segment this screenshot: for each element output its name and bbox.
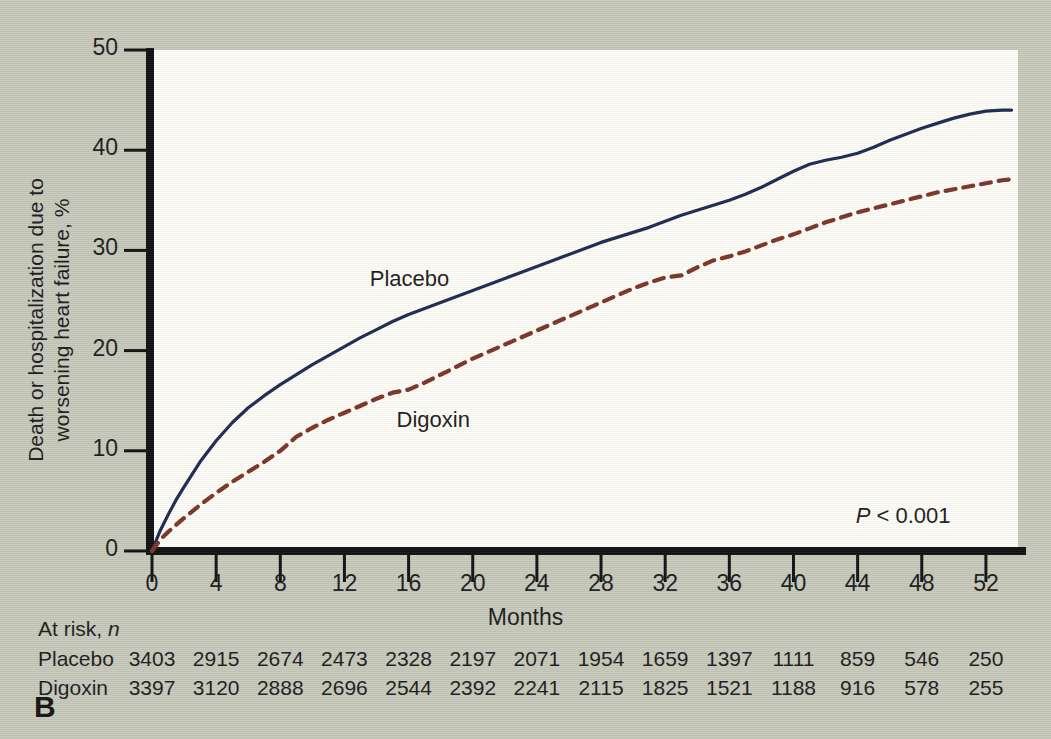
y-tick-label: 20 — [58, 335, 118, 362]
at-risk-row-name: Placebo — [38, 647, 114, 671]
x-tick-label: 48 — [892, 570, 952, 597]
y-axis-title-line1: Death or hospitalization due to — [23, 85, 49, 555]
at-risk-value: 578 — [887, 676, 957, 700]
y-axis-spine — [146, 48, 154, 553]
at-risk-value: 2241 — [502, 676, 572, 700]
at-risk-value: 2197 — [438, 647, 508, 671]
at-risk-value: 2696 — [309, 676, 379, 700]
p-value-symbol: P — [856, 503, 871, 528]
at-risk-value: 916 — [823, 676, 893, 700]
plot-area-background — [152, 50, 1018, 551]
x-tick-label: 28 — [571, 570, 631, 597]
x-axis-spine — [146, 547, 1026, 555]
p-value-text: < 0.001 — [870, 503, 950, 528]
series-label-placebo: Placebo — [370, 266, 450, 292]
at-risk-title: At risk, n — [38, 617, 120, 641]
x-tick-label: 40 — [763, 570, 823, 597]
at-risk-value: 2473 — [309, 647, 379, 671]
y-tick-label: 10 — [58, 435, 118, 462]
y-tick-label: 0 — [58, 535, 118, 562]
series-label-digoxin: Digoxin — [397, 407, 470, 433]
at-risk-value: 2888 — [245, 676, 315, 700]
y-tick-label: 50 — [58, 34, 118, 61]
x-axis-title: Months — [0, 604, 1051, 631]
x-tick-label: 20 — [443, 570, 503, 597]
p-value-annotation: P < 0.001 — [856, 503, 951, 529]
panel-label: B — [34, 690, 56, 724]
at-risk-value: 2071 — [502, 647, 572, 671]
at-risk-value: 3403 — [117, 647, 187, 671]
x-tick-label: 16 — [379, 570, 439, 597]
at-risk-value: 3397 — [117, 676, 187, 700]
x-tick-label: 52 — [956, 570, 1016, 597]
at-risk-row: Digoxin339731202888269625442392224121151… — [0, 676, 1051, 704]
at-risk-value: 1521 — [694, 676, 764, 700]
at-risk-title-n: n — [108, 617, 120, 640]
at-risk-value: 3120 — [181, 676, 251, 700]
x-tick-label: 0 — [122, 570, 182, 597]
at-risk-value: 1111 — [758, 647, 828, 671]
at-risk-value: 2544 — [374, 676, 444, 700]
at-risk-value: 2915 — [181, 647, 251, 671]
at-risk-value: 1659 — [630, 647, 700, 671]
at-risk-value: 2674 — [245, 647, 315, 671]
x-tick-label: 4 — [186, 570, 246, 597]
y-tick-label: 40 — [58, 134, 118, 161]
at-risk-row: Placebo340329152674247323282197207119541… — [0, 647, 1051, 675]
x-tick-label: 24 — [507, 570, 567, 597]
at-risk-value: 2328 — [374, 647, 444, 671]
x-tick-label: 12 — [314, 570, 374, 597]
x-tick-label: 32 — [635, 570, 695, 597]
at-risk-value: 1188 — [758, 676, 828, 700]
at-risk-value: 546 — [887, 647, 957, 671]
at-risk-value: 1954 — [566, 647, 636, 671]
at-risk-value: 1397 — [694, 647, 764, 671]
at-risk-value: 2115 — [566, 676, 636, 700]
x-tick-label: 36 — [699, 570, 759, 597]
at-risk-value: 2392 — [438, 676, 508, 700]
at-risk-value: 250 — [951, 647, 1021, 671]
at-risk-value: 255 — [951, 676, 1021, 700]
y-tick-label: 30 — [58, 234, 118, 261]
x-tick-label: 44 — [828, 570, 888, 597]
at-risk-value: 1825 — [630, 676, 700, 700]
at-risk-value: 859 — [823, 647, 893, 671]
figure-panel-b: Death or hospitalization due to worsenin… — [0, 0, 1051, 739]
at-risk-title-text: At risk, — [38, 617, 108, 640]
x-tick-label: 8 — [250, 570, 310, 597]
